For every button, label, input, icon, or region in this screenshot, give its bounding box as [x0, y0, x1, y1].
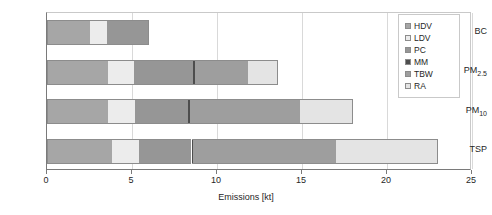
- x-tick-label-10: 10: [211, 176, 221, 185]
- legend-swatch-ra-icon: [405, 83, 411, 89]
- legend-label: LDV: [414, 34, 431, 43]
- legend-item-ra[interactable]: RA: [405, 80, 455, 92]
- bar-segment-ldv: [108, 60, 134, 85]
- bar-row: [47, 139, 472, 164]
- x-tick-5: [131, 170, 132, 174]
- legend-item-mm[interactable]: MM: [405, 56, 455, 68]
- bar-segment-pc: [139, 139, 192, 164]
- bar-segment-hdv: [47, 60, 108, 85]
- legend-label: TBW: [414, 70, 433, 79]
- bar-segment-ldv: [90, 20, 107, 45]
- legend-swatch-ldv-icon: [405, 35, 411, 41]
- bar-segment-ldv: [112, 139, 139, 164]
- legend-swatch-hdv-icon: [405, 23, 411, 29]
- x-tick-label-25: 25: [466, 176, 476, 185]
- bar-segment-hdv: [47, 99, 108, 124]
- x-tick-10: [216, 170, 217, 174]
- bar-segment-tbw: [195, 60, 248, 85]
- bar-segment-hdv: [47, 139, 112, 164]
- bar-segment-pc: [135, 99, 188, 124]
- x-axis-title: Emissions [kt]: [0, 192, 492, 202]
- bar-row: [47, 99, 472, 124]
- bar-segment-ldv: [108, 99, 135, 124]
- legend-label: RA: [414, 82, 426, 91]
- legend-label: PC: [414, 46, 426, 55]
- bar-segment-hdv: [47, 20, 90, 45]
- y-axis-label-pm10: PM10: [466, 106, 487, 117]
- x-tick-15: [301, 170, 302, 174]
- bar-segment-pc: [107, 20, 150, 45]
- x-tick-20: [386, 170, 387, 174]
- bar-segment-tbw: [193, 139, 336, 164]
- legend: HDVLDVPCMMTBWRA: [398, 14, 460, 98]
- x-tick-25: [471, 170, 472, 174]
- bar-segment-tbw: [190, 99, 301, 124]
- legend-label: HDV: [414, 22, 432, 31]
- legend-item-ldv[interactable]: LDV: [405, 32, 455, 44]
- bar-segment-ra: [336, 139, 438, 164]
- legend-label: MM: [414, 58, 428, 67]
- legend-swatch-tbw-icon: [405, 71, 411, 77]
- bar-segment-ra: [248, 60, 279, 85]
- bar-segment-pc: [134, 60, 194, 85]
- x-tick-label-5: 5: [128, 176, 133, 185]
- y-axis-label-tsp: TSP: [469, 145, 487, 154]
- legend-item-pc[interactable]: PC: [405, 44, 455, 56]
- x-tick-0: [46, 170, 47, 174]
- y-axis-label-pm2-5: PM2.5: [464, 66, 487, 77]
- bar-segment-ra: [300, 99, 353, 124]
- x-tick-label-0: 0: [43, 176, 48, 185]
- legend-swatch-mm-icon: [405, 59, 411, 65]
- x-tick-label-15: 15: [296, 176, 306, 185]
- emissions-stacked-bar-chart: BCPM2.5PM10TSP 0510152025 Emissions [kt]…: [0, 0, 492, 215]
- legend-item-tbw[interactable]: TBW: [405, 68, 455, 80]
- legend-item-hdv[interactable]: HDV: [405, 20, 455, 32]
- legend-swatch-pc-icon: [405, 47, 411, 53]
- y-axis-label-bc: BC: [474, 27, 487, 36]
- x-tick-label-20: 20: [381, 176, 391, 185]
